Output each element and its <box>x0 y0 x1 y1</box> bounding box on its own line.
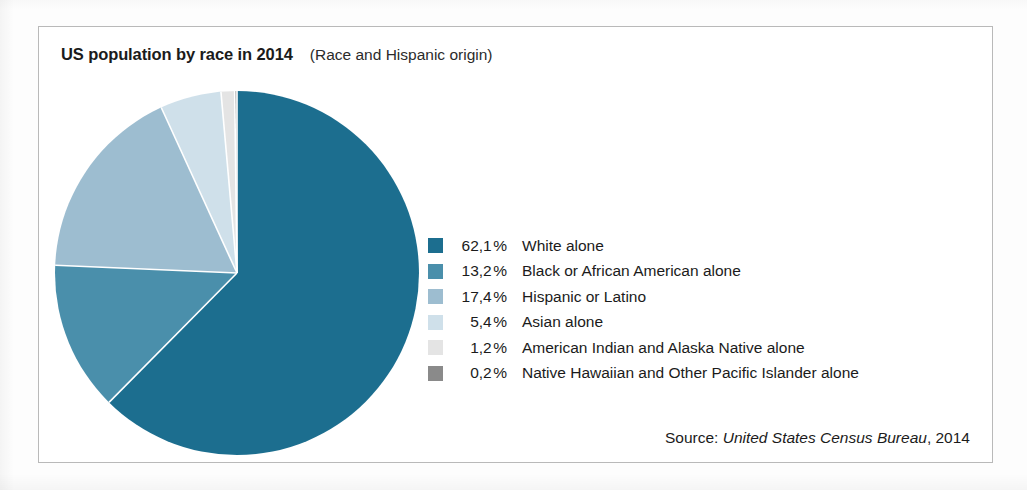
legend-percentage-value: 1,2 <box>470 339 492 356</box>
legend-percentage: 0,2% <box>452 364 507 382</box>
legend-color-swatch <box>428 264 443 279</box>
legend-item: 13,2%Black or African American alone <box>428 259 968 285</box>
legend-percentage-value: 5,4 <box>470 313 492 330</box>
legend-label: White alone <box>522 237 604 255</box>
legend-item: 0,2%Native Hawaiian and Other Pacific Is… <box>428 361 968 387</box>
legend-percentage-unit: % <box>493 262 507 279</box>
legend-percentage-unit: % <box>493 237 507 254</box>
legend-color-swatch <box>428 315 443 330</box>
legend-percentage-value: 0,2 <box>470 364 492 381</box>
source-year: , 2014 <box>927 429 970 446</box>
legend-label: Native Hawaiian and Other Pacific Island… <box>522 364 859 382</box>
legend-item: 62,1%White alone <box>428 233 968 259</box>
legend-color-swatch <box>428 366 443 381</box>
source-publisher: United States Census Bureau <box>723 429 927 446</box>
legend-percentage: 5,4% <box>452 313 507 331</box>
chart-title-row: US population by race in 2014 (Race and … <box>61 45 492 64</box>
pie-disc <box>55 91 419 455</box>
legend-percentage-unit: % <box>493 339 507 356</box>
legend-item: 1,2%American Indian and Alaska Native al… <box>428 335 968 361</box>
legend-percentage-value: 62,1 <box>462 237 492 254</box>
page-title: US population by race in 2014 <box>61 45 293 64</box>
legend-item: 17,4%Hispanic or Latino <box>428 284 968 310</box>
legend-label: Black or African American alone <box>522 262 741 280</box>
chart-subtitle: (Race and Hispanic origin) <box>310 46 493 64</box>
legend-color-swatch <box>428 238 443 253</box>
legend-percentage-unit: % <box>493 364 507 381</box>
source-note: Source: United States Census Bureau, 201… <box>665 429 970 447</box>
chart-legend: 62,1%White alone13,2%Black or African Am… <box>428 233 968 386</box>
legend-percentage: 1,2% <box>452 339 507 357</box>
legend-percentage-value: 17,4 <box>462 288 492 305</box>
legend-label: American Indian and Alaska Native alone <box>522 339 805 357</box>
legend-percentage: 17,4% <box>452 288 507 306</box>
legend-percentage-value: 13,2 <box>462 262 492 279</box>
pie-chart <box>55 91 419 463</box>
legend-label: Asian alone <box>522 313 603 331</box>
legend-percentage: 13,2% <box>452 262 507 280</box>
legend-color-swatch <box>428 289 443 304</box>
legend-label: Hispanic or Latino <box>522 288 646 306</box>
legend-percentage: 62,1% <box>452 237 507 255</box>
legend-color-swatch <box>428 340 443 355</box>
legend-percentage-unit: % <box>493 288 507 305</box>
legend-item: 5,4%Asian alone <box>428 310 968 336</box>
source-prefix: Source: <box>665 429 718 446</box>
legend-percentage-unit: % <box>493 313 507 330</box>
chart-frame: US population by race in 2014 (Race and … <box>38 26 993 463</box>
